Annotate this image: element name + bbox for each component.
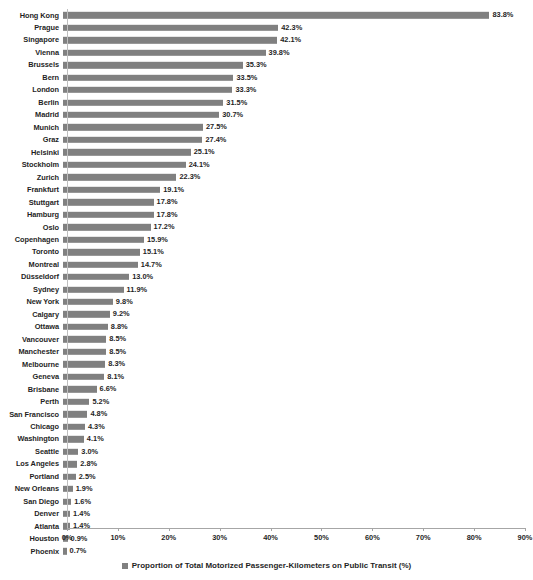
bar-row: Atlanta1.4%: [0, 520, 533, 532]
bar-track: 0.9%: [63, 533, 533, 545]
bar-value-label: 4.1%: [84, 435, 104, 442]
bar: [63, 324, 108, 330]
bar-row: Chicago4.3%: [0, 420, 533, 432]
category-label: Brussels: [0, 61, 63, 68]
x-axis-tick: [271, 528, 272, 531]
bar: [63, 249, 140, 255]
bar-row: Manchester8.5%: [0, 346, 533, 358]
bar-track: 22.3%: [63, 171, 533, 183]
bar-row: Stuttgart17.8%: [0, 196, 533, 208]
bar-track: 8.5%: [63, 346, 533, 358]
bar-track: 15.9%: [63, 233, 533, 245]
category-label: Graz: [0, 136, 63, 143]
bar-row: Graz27.4%: [0, 134, 533, 146]
category-label: Vienna: [0, 49, 63, 56]
bar-row: Zurich22.3%: [0, 171, 533, 183]
bar-value-label: 83.8%: [489, 12, 513, 19]
bar-row: Düsseldorf13.0%: [0, 271, 533, 283]
x-axis-tick: [525, 528, 526, 531]
bar-value-label: 8.5%: [106, 348, 126, 355]
bar-value-label: 30.7%: [219, 111, 243, 118]
x-axis-line: [67, 528, 525, 529]
bar-value-label: 17.8%: [154, 211, 178, 218]
bar-row: Hamburg17.8%: [0, 209, 533, 221]
bar-row: Montreal14.7%: [0, 258, 533, 270]
bar: [63, 236, 144, 242]
bar: [63, 25, 278, 31]
bar-value-label: 11.9%: [124, 286, 148, 293]
bar: [63, 137, 202, 143]
bar-row: Geneva8.1%: [0, 371, 533, 383]
bar-row: Toronto15.1%: [0, 246, 533, 258]
category-label: Hong Kong: [0, 12, 63, 19]
category-label: Oslo: [0, 224, 63, 231]
category-label: Denver: [0, 510, 63, 517]
bar: [63, 49, 266, 55]
category-label: Calgary: [0, 311, 63, 318]
legend-swatch-icon: [122, 563, 128, 569]
bar-value-label: 9.2%: [110, 311, 130, 318]
bar-value-label: 24.1%: [186, 161, 210, 168]
bar-row: Portland2.5%: [0, 470, 533, 482]
bar-row: Frankfurt19.1%: [0, 184, 533, 196]
bar-row: Brussels35.3%: [0, 59, 533, 71]
bar: [63, 199, 154, 205]
bar: [63, 212, 154, 218]
plot-area: Hong Kong83.8%Prague42.3%Singapore42.1%V…: [0, 9, 533, 528]
bar-value-label: 13.0%: [129, 273, 153, 280]
category-label: Zurich: [0, 174, 63, 181]
bar: [63, 12, 489, 18]
bar: [63, 149, 191, 155]
bar-row: Singapore42.1%: [0, 34, 533, 46]
bar-track: 8.8%: [63, 321, 533, 333]
bar-track: 33.3%: [63, 84, 533, 96]
bar-track: 6.6%: [63, 383, 533, 395]
bar-value-label: 4.3%: [85, 423, 105, 430]
bar-track: 1.9%: [63, 483, 533, 495]
bar: [63, 187, 160, 193]
bar-track: 25.1%: [63, 146, 533, 158]
bar-track: 1.4%: [63, 520, 533, 532]
category-label: Berlin: [0, 99, 63, 106]
category-label: Madrid: [0, 111, 63, 118]
bar-value-label: 1.9%: [73, 485, 93, 492]
bar: [63, 112, 219, 118]
bar: [63, 286, 124, 292]
bar-track: 9.8%: [63, 296, 533, 308]
bar-track: 8.3%: [63, 358, 533, 370]
bar-value-label: 0.7%: [67, 548, 87, 555]
x-axis-tick-label: 70%: [416, 533, 431, 542]
bar-row: Perth5.2%: [0, 396, 533, 408]
category-label: Hamburg: [0, 211, 63, 218]
bar-value-label: 35.3%: [243, 61, 267, 68]
bar-row: Calgary9.2%: [0, 308, 533, 320]
bar-track: 14.7%: [63, 258, 533, 270]
category-label: Copenhagen: [0, 236, 63, 243]
bar-row: Ottawa8.8%: [0, 321, 533, 333]
bar: [63, 448, 78, 454]
bar-row: Los Angeles2.8%: [0, 458, 533, 470]
bar-track: 2.5%: [63, 470, 533, 482]
category-label: Helsinki: [0, 149, 63, 156]
bar-track: 42.1%: [63, 34, 533, 46]
bar-row: Vienna39.8%: [0, 46, 533, 58]
bar-row: London33.3%: [0, 84, 533, 96]
category-label: Munich: [0, 124, 63, 131]
category-label: Melbourne: [0, 361, 63, 368]
bar: [63, 386, 97, 392]
bar-track: 19.1%: [63, 184, 533, 196]
bar-track: 4.3%: [63, 420, 533, 432]
bar-row: Washington4.1%: [0, 433, 533, 445]
category-label: Brisbane: [0, 386, 63, 393]
bar-row: Brisbane6.6%: [0, 383, 533, 395]
x-axis-tick-label: 60%: [365, 533, 380, 542]
bar-row: Sydney11.9%: [0, 283, 533, 295]
category-label: Perth: [0, 398, 63, 405]
category-label: Frankfurt: [0, 186, 63, 193]
category-label: Singapore: [0, 36, 63, 43]
bar: [63, 37, 277, 43]
category-label: Chicago: [0, 423, 63, 430]
bar-value-label: 4.8%: [87, 411, 107, 418]
bar: [63, 62, 243, 68]
x-axis-tick-label: 0%: [62, 533, 73, 542]
